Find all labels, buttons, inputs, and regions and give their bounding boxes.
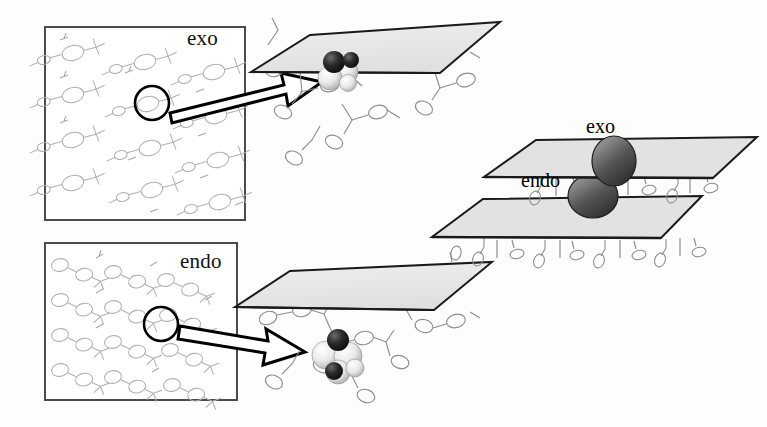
endo-layer-plane [235,262,492,310]
exo-packing-panel [30,27,252,225]
lower-plane-pendants [471,238,707,269]
lower-layer-plane [432,196,702,238]
schematic-endo-label: endo [521,169,560,192]
figure-canvas: exo endo exo endo [0,0,767,427]
exo-panel-label: exo [187,26,218,51]
layer-stack-schematic [432,136,757,269]
figure-svg [0,0,767,427]
exo-sphere [592,136,636,186]
schematic-exo-label: exo [586,115,615,138]
endo-panel-label: endo [180,249,222,274]
exo-layer-plane [251,22,500,73]
endo-host-guest-structure [235,245,492,405]
endo-guest-spacefill [312,329,364,384]
